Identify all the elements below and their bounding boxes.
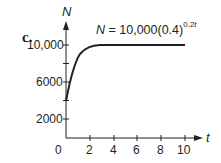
data-curve xyxy=(66,45,185,101)
x-axis-arrow-icon xyxy=(194,135,203,141)
y-axis-arrow-icon xyxy=(63,21,69,30)
chart-canvas xyxy=(0,0,221,163)
